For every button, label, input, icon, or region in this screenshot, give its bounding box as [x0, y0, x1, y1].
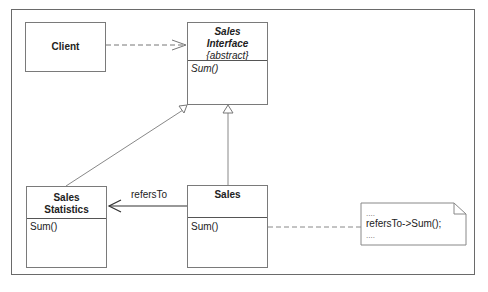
association-label: refersTo [131, 189, 167, 201]
compartment-divider [188, 60, 267, 61]
class-sales-interface[interactable]: Sales Interface {abstract} Sum() [187, 22, 268, 105]
class-name-line2: Interface [188, 38, 267, 50]
class-name-line2: Statistics [27, 204, 106, 216]
class-sales-statistics[interactable]: Sales Statistics Sum() [26, 186, 107, 268]
class-name: Sales Interface {abstract} [188, 26, 267, 62]
compartment-divider [188, 217, 267, 218]
compartment-divider [27, 218, 106, 219]
class-name: Sales Statistics [27, 192, 106, 216]
note-line-3: .... [366, 230, 375, 241]
note-line-2: refersTo->Sum(); [366, 218, 441, 229]
operation-sum: Sum() [191, 221, 220, 233]
operation-sum: Sum() [30, 221, 57, 233]
operation-sum: Sum() [191, 63, 218, 75]
class-name: Client [26, 41, 105, 53]
class-sales[interactable]: Sales Sum() [187, 185, 268, 268]
class-client[interactable]: Client [25, 22, 106, 72]
association-arrow-refersto [109, 200, 187, 212]
class-name-line1: Sales [188, 26, 267, 38]
class-name: Sales [188, 189, 267, 201]
class-name-line1: Sales [27, 192, 106, 204]
dependency-arrow [106, 40, 186, 50]
generalization-arrow-statistics [66, 105, 187, 186]
generalization-arrow-sales [223, 105, 233, 185]
